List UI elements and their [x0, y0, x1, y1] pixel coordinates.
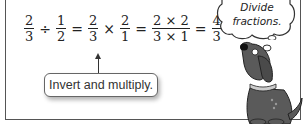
- division-equation: 23 ÷ 12 = 23 × 21 = 2 × 23 × 1 = 43: [22, 14, 224, 43]
- fraction-reciprocal: 21: [120, 14, 130, 43]
- fraction-product: 2 × 23 × 1: [152, 14, 190, 43]
- equals-operator: =: [195, 21, 207, 37]
- callout-label: Invert and multiply.: [49, 78, 153, 92]
- numerator: 2: [24, 14, 34, 29]
- numerator: 1: [56, 14, 66, 29]
- pointer-arrow-icon: [98, 57, 99, 74]
- denominator: 3 × 1: [153, 29, 189, 43]
- fraction-one-half: 12: [56, 14, 66, 43]
- numerator: 2: [120, 14, 130, 29]
- dog-illustration-icon: [228, 40, 304, 124]
- divide-operator: ÷: [39, 21, 51, 37]
- thought-line-1: Divide: [222, 0, 292, 14]
- fraction-two-thirds: 23: [24, 14, 34, 43]
- numerator: 2: [88, 14, 98, 29]
- equals-operator: =: [135, 21, 147, 37]
- multiply-operator: ×: [103, 21, 115, 37]
- thought-line-2: fractions.: [222, 14, 292, 28]
- denominator: 2: [57, 29, 65, 43]
- equals-operator: =: [71, 21, 83, 37]
- callout-box: Invert and multiply.: [44, 73, 158, 97]
- denominator: 3: [89, 29, 97, 43]
- fraction-two-thirds: 23: [88, 14, 98, 43]
- denominator: 1: [121, 29, 129, 43]
- numerator: 2 × 2: [152, 14, 190, 29]
- thought-text: Divide fractions.: [222, 0, 292, 28]
- denominator: 3: [25, 29, 33, 43]
